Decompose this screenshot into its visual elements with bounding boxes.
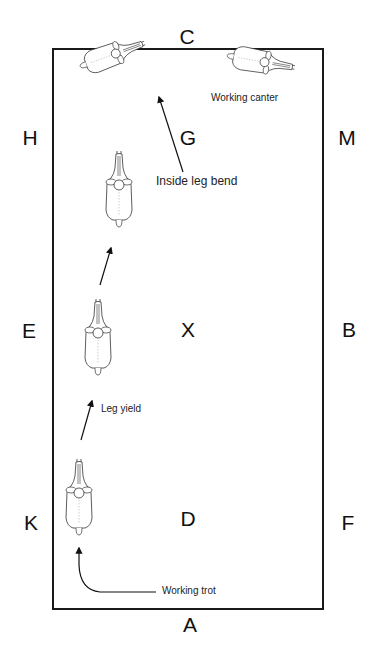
horse-lower-icon xyxy=(66,459,92,535)
arrow-leg-yield xyxy=(81,401,92,440)
horse-paths-overlay xyxy=(0,0,374,662)
horse-middle-icon xyxy=(85,299,111,375)
horse-working-canter-icon xyxy=(225,44,296,79)
horse-canter-bend-icon xyxy=(76,32,148,77)
arrow-working-trot xyxy=(79,548,156,592)
arrow-inside-leg-bend xyxy=(159,97,183,172)
horse-upper-icon xyxy=(106,151,132,227)
arrow-to-upper-horse xyxy=(100,248,111,285)
